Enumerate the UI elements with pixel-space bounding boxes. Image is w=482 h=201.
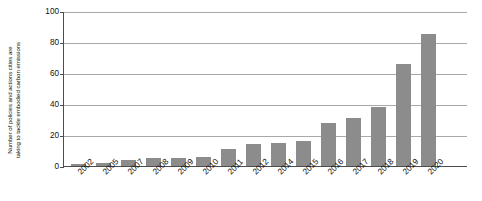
y-axis-title-line2: taking to tackle embodied carbon emissio…	[14, 42, 22, 158]
x-tick-slot: 2020	[416, 168, 441, 201]
x-tick-slot: 2014	[266, 168, 291, 201]
x-axis-tick-labels: 2002200520072008200920102011201220142015…	[64, 168, 467, 201]
y-tick-label: 80	[50, 39, 59, 47]
bar-slot	[116, 12, 141, 166]
y-tick-label: 20	[50, 132, 59, 140]
bar-slot	[341, 12, 366, 166]
bar[interactable]	[396, 64, 412, 166]
x-tick-slot: 2015	[291, 168, 316, 201]
x-tick-slot: 2019	[391, 168, 416, 201]
bar-slot	[291, 12, 316, 166]
bar-slot	[316, 12, 341, 166]
bar-slot	[266, 12, 291, 166]
bar-slot	[391, 12, 416, 166]
x-tick-slot: 2016	[316, 168, 341, 201]
x-tick-slot: 2002	[66, 168, 91, 201]
x-tick-slot: 2010	[191, 168, 216, 201]
x-tick-slot: 2011	[216, 168, 241, 201]
y-tick-label: 0	[54, 163, 59, 171]
x-tick-slot: 2005	[91, 168, 116, 201]
y-axis-tick-labels: 020406080100	[33, 0, 59, 201]
bar-slot	[416, 12, 441, 166]
y-tick-label: 60	[50, 70, 59, 78]
bar-slot	[241, 12, 266, 166]
y-tick-label: 100	[45, 8, 59, 16]
y-axis-title: Number of policies and actions cities ar…	[0, 15, 28, 185]
x-tick-slot: 2017	[341, 168, 366, 201]
bar[interactable]	[371, 107, 387, 166]
plot-area	[63, 12, 467, 167]
x-tick-slot: 2008	[141, 168, 166, 201]
x-tick-slot: 2009	[166, 168, 191, 201]
y-axis-title-line1: Number of policies and actions cities ar…	[6, 46, 14, 153]
bar-slot	[366, 12, 391, 166]
bar-slot	[216, 12, 241, 166]
x-tick-slot: 2018	[366, 168, 391, 201]
bar-chart: Number of policies and actions cities ar…	[0, 0, 482, 201]
bar-slot	[66, 12, 91, 166]
bar-slot	[191, 12, 216, 166]
y-tick-label: 40	[50, 101, 59, 109]
bar[interactable]	[421, 34, 437, 166]
bar-slot	[91, 12, 116, 166]
bar-slot	[141, 12, 166, 166]
x-tick-slot: 2012	[241, 168, 266, 201]
bar-series	[64, 12, 467, 166]
x-tick-slot: 2007	[116, 168, 141, 201]
bar-slot	[166, 12, 191, 166]
